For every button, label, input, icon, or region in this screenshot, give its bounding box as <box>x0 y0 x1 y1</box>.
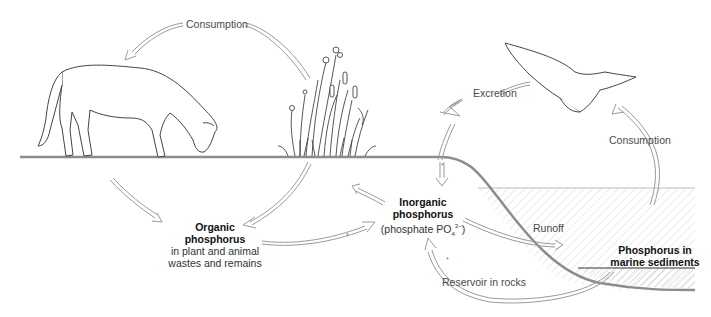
label-consumption-sea: Consumption <box>609 134 671 146</box>
arrow-organic-to-inorganic <box>262 222 375 245</box>
label-runoff: Runoff <box>533 222 564 234</box>
diagram-canvas: * * * <box>0 0 711 317</box>
label-excretion: Excretion <box>473 87 517 99</box>
horse-illustration <box>38 65 217 157</box>
organic-desc-1: in plant and animal <box>160 245 270 257</box>
inorganic-desc-prefix: (phosphate PO <box>381 223 452 235</box>
arrow-plants-to-organic <box>243 162 311 228</box>
marsh-plants-illustration <box>278 47 376 156</box>
node-inorganic-phosphorus: Inorganic phosphorus (phosphate PO43−) <box>378 196 468 240</box>
inorganic-title-2: phosphorus <box>378 208 468 220</box>
organic-title-1: Organic <box>160 221 270 233</box>
asterisk-excretion: * <box>441 162 444 169</box>
inorganic-title-1: Inorganic <box>378 196 468 208</box>
organic-title-2: phosphorus <box>160 233 270 245</box>
organic-desc-2: wastes and remains <box>160 257 270 269</box>
node-organic-phosphorus: Organic phosphorus in plant and animal w… <box>160 221 270 269</box>
inorganic-desc: (phosphate PO43−) <box>378 220 468 240</box>
node-marine-sediments: Phosphorus in marine sediments <box>600 244 710 268</box>
inorganic-desc-suffix: ) <box>462 223 466 235</box>
label-consumption-land: Consumption <box>186 18 248 30</box>
phosphorus-cycle-diagram: * * * Consumption Excretion Consumption … <box>0 0 711 317</box>
asterisk-organic: * <box>346 232 349 239</box>
label-reservoir: Reservoir in rocks <box>442 276 526 288</box>
asterisk-reservoir: * <box>446 256 449 263</box>
marine-title-1: Phosphorus in <box>600 244 710 256</box>
seabird-illustration <box>505 43 636 112</box>
marine-title-2: marine sediments <box>600 256 710 268</box>
arrow-horse-to-organic <box>110 178 162 222</box>
inorganic-desc-sup: 3− <box>455 223 462 229</box>
inorganic-desc-sub: 4 <box>451 231 454 237</box>
